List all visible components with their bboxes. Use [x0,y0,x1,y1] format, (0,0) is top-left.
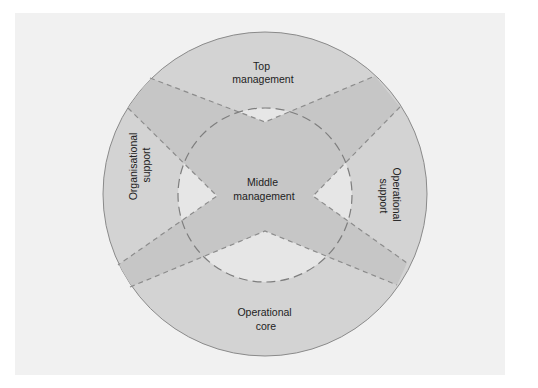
organisation-structure-diagram: Top management Organisational support Mi… [0,0,538,388]
